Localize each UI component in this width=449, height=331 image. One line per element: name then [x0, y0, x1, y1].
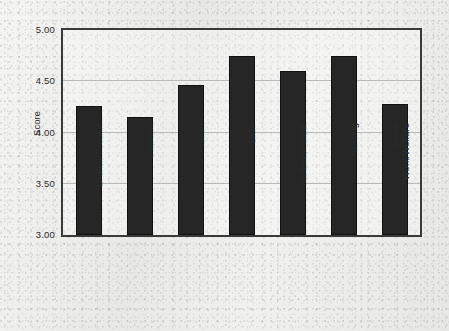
x-tick-label: Nursing — [348, 123, 359, 243]
x-tick-label: SocialWork/Welfare — [389, 123, 411, 243]
y-tick-label: 3.00 — [9, 229, 55, 240]
y-tick-label: 5.00 — [9, 24, 55, 35]
bar-chart: 3.003.504.004.505.00 Score Drama/Theatre… — [0, 0, 449, 331]
x-tick-label: Classics — [144, 123, 155, 243]
y-tick-label: 3.50 — [9, 178, 55, 189]
y-tick-label: 4.50 — [9, 75, 55, 86]
x-tick-label-line: Social — [389, 123, 400, 243]
x-tick-label: Drama/Theatre — [93, 123, 104, 243]
x-tick-label: Italian — [195, 123, 206, 243]
y-axis-title: Score — [31, 94, 42, 154]
x-tick-label: Medieval Stud. — [297, 123, 308, 243]
x-tick-label: Latin — [246, 123, 257, 243]
x-tick-label-line: Work/Welfare — [400, 123, 411, 243]
plot-area — [61, 28, 422, 237]
